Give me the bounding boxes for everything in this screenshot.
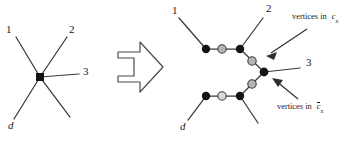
right-edge-label-2: 2 xyxy=(266,3,272,14)
annotation-arrow-cx-line xyxy=(271,29,307,53)
transformation-arrow-icon xyxy=(118,42,163,92)
left-edge-label-1: 1 xyxy=(6,24,12,35)
tree-node-filled-lower-left xyxy=(202,92,210,100)
star-edge-2 xyxy=(40,37,67,77)
annotation-cxbar-subscript: x xyxy=(320,107,323,114)
tree-node-hollow-spine-upper xyxy=(248,57,256,65)
annotation-arrows xyxy=(266,29,307,99)
annotation-cxbar-prefix: vertices in xyxy=(277,102,312,111)
tree-node-filled-center xyxy=(260,68,269,77)
annotation-cx-prefix: vertices in xyxy=(292,12,327,21)
figure-container: 1 2 3 d 1 2 3 d vertices in cx vertices … xyxy=(0,0,359,143)
star-edge-lower-right xyxy=(40,77,70,117)
left-edge-label-d: d xyxy=(8,120,14,131)
left-star-graph xyxy=(14,37,79,119)
tree-node-hollow-upper xyxy=(218,45,226,53)
annotation-cx-subscript: x xyxy=(335,17,338,24)
tree-edge-leaf-2 xyxy=(240,18,263,49)
annotation-vertices-in-cx: vertices in cx xyxy=(292,13,338,23)
tree-node-hollow-lower xyxy=(218,92,226,100)
left-edge-label-2: 2 xyxy=(69,24,75,35)
tree-edge-leaf-1 xyxy=(179,18,206,49)
tree-node-filled-upper-left xyxy=(202,45,210,53)
right-edge-label-d: d xyxy=(180,121,186,132)
tree-edge-leaf-d xyxy=(188,96,206,120)
star-center-node xyxy=(36,73,44,81)
tree-edge-leaf-3 xyxy=(264,68,300,72)
star-edge-d xyxy=(14,77,40,119)
left-edge-label-3: 3 xyxy=(83,66,89,77)
tree-node-hollow-spine-lower xyxy=(248,80,256,88)
annotation-vertices-in-cx-complement: vertices in cx xyxy=(277,103,323,113)
star-edge-1 xyxy=(16,37,40,77)
right-edge-label-1: 1 xyxy=(172,5,178,16)
right-edge-label-3: 3 xyxy=(306,57,312,68)
tree-node-filled-upper-right xyxy=(236,45,244,53)
star-edge-3 xyxy=(40,74,79,77)
tree-edge-leaf-lower-right xyxy=(240,96,258,123)
tree-node-filled-lower-right xyxy=(236,92,244,100)
